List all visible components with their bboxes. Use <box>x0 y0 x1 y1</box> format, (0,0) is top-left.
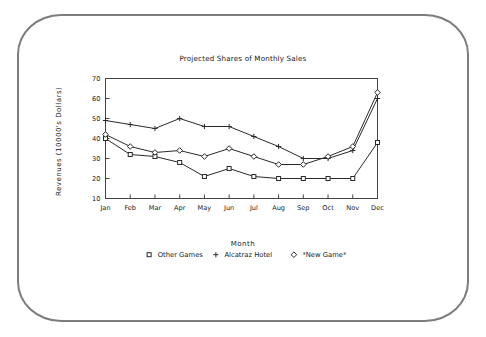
chart-legend: Other GamesAlcatraz Hotel*New Game* <box>147 251 347 259</box>
x-tick-label: Aug <box>272 204 285 212</box>
y-axis-tick-labels: 10203040506070 <box>92 75 100 203</box>
y-axis-title: Revenues (10000's Dollars) <box>55 87 63 196</box>
series-1 <box>104 137 380 181</box>
y-tick-label: 60 <box>92 95 100 103</box>
legend-label: *New Game* <box>302 251 347 259</box>
x-axis-title: Month <box>231 240 255 248</box>
data-point-marker <box>326 177 330 181</box>
data-point-marker <box>127 144 133 150</box>
x-tick-label: Sep <box>297 204 309 212</box>
data-point-marker <box>177 148 183 154</box>
data-point-marker <box>351 177 355 181</box>
legend-item: Alcatraz Hotel <box>213 251 272 259</box>
y-tick-label: 70 <box>92 75 100 83</box>
data-point-marker <box>277 177 281 181</box>
x-axis-tick-labels: JanFebMarAprMayJunJulAugSepOctNovDec <box>99 204 384 212</box>
x-tick-label: May <box>198 204 212 212</box>
y-tick-label: 50 <box>92 115 100 123</box>
series-line <box>106 139 378 179</box>
data-point-marker <box>202 175 206 179</box>
x-tick-label: Jul <box>249 204 258 212</box>
data-point-marker <box>227 167 231 171</box>
data-point-marker <box>276 162 282 168</box>
data-point-marker <box>226 146 232 152</box>
x-tick-label: Nov <box>346 204 359 212</box>
data-series-layer <box>103 90 381 181</box>
x-tick-label: Apr <box>174 204 186 212</box>
data-point-marker <box>128 153 132 157</box>
square-marker <box>147 253 151 257</box>
legend-item: *New Game* <box>291 251 347 259</box>
x-tick-label: Jun <box>223 204 234 212</box>
data-point-marker <box>350 144 356 150</box>
legend-label: Alcatraz Hotel <box>224 251 272 259</box>
legend-label: Other Games <box>158 251 204 259</box>
y-tick-label: 10 <box>92 195 100 203</box>
legend-item: Other Games <box>147 251 203 259</box>
plot-frame <box>106 79 378 199</box>
series-line <box>106 93 378 165</box>
series-2 <box>103 96 380 161</box>
y-tick-label: 40 <box>92 135 100 143</box>
data-point-marker <box>178 161 182 165</box>
y-tick-label: 30 <box>92 155 100 163</box>
data-point-marker <box>202 154 208 160</box>
data-point-marker <box>301 177 305 181</box>
data-point-marker <box>375 90 381 96</box>
diamond-marker <box>291 252 297 258</box>
series-line <box>106 99 378 159</box>
x-tick-label: Oct <box>322 204 334 212</box>
data-point-marker <box>376 141 380 145</box>
data-point-marker <box>251 154 257 160</box>
x-tick-label: Mar <box>149 204 162 212</box>
y-tick-label: 20 <box>92 175 100 183</box>
x-axis-ticks <box>106 195 378 199</box>
chart-title: Projected Shares of Monthly Sales <box>180 54 307 63</box>
x-tick-label: Feb <box>124 204 136 212</box>
x-tick-label: Jan <box>99 204 110 212</box>
chart-figure: Projected Shares of Monthly Sales Revenu… <box>0 0 486 337</box>
data-point-marker <box>252 175 256 179</box>
x-tick-label: Dec <box>371 204 384 212</box>
data-point-marker <box>301 162 307 168</box>
